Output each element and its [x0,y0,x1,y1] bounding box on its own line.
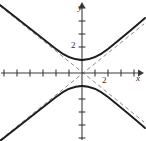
upper-branch-curve [0,5,145,60]
x-axis-tick-label-2: 2 [102,76,107,85]
plot-canvas [0,0,146,141]
y-axis-tick-label-2: 2 [71,41,76,50]
asymptote-negative-slope-line [0,6,144,122]
lower-branch-curve [0,86,145,141]
hyperbola-figure: y x 2 2 [0,0,146,141]
x-axis-label: x [136,74,140,83]
y-axis-label: y [78,3,82,12]
x-axis-group [1,70,144,77]
y-axis-group [79,2,86,140]
